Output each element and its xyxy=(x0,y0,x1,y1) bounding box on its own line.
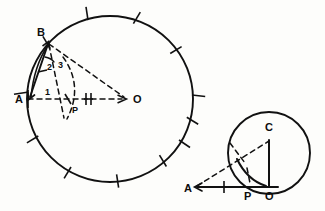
segment-B-to-O xyxy=(49,44,124,97)
angle-label-1: 1 xyxy=(45,87,50,97)
arc-intersection-to-O xyxy=(237,159,266,186)
tick-mark xyxy=(86,7,88,20)
tick-mark xyxy=(192,95,205,97)
label-P-small: P xyxy=(244,190,251,202)
segment-B-through-P xyxy=(49,45,64,118)
congruence-marks-PO xyxy=(84,93,93,105)
label-A-large: A xyxy=(15,93,23,105)
label-B-large: B xyxy=(37,26,45,38)
geometry-figure: A B O P 1 2 3 xyxy=(0,0,325,211)
label-C-small: C xyxy=(265,121,273,133)
large-circle-diagram: A B O P 1 2 3 xyxy=(14,7,205,188)
angle-label-3: 3 xyxy=(58,60,63,70)
small-circle-diagram: A C P O xyxy=(184,112,310,202)
label-A-small: A xyxy=(184,182,192,194)
tick-mark xyxy=(117,174,119,187)
label-O-large: O xyxy=(133,93,142,105)
angle-label-2: 2 xyxy=(47,62,52,72)
label-P-large: P xyxy=(72,105,78,115)
label-O-small: O xyxy=(265,190,274,202)
geometry-canvas: A B O P 1 2 3 xyxy=(0,0,325,211)
secant-A-to-C xyxy=(197,141,269,186)
